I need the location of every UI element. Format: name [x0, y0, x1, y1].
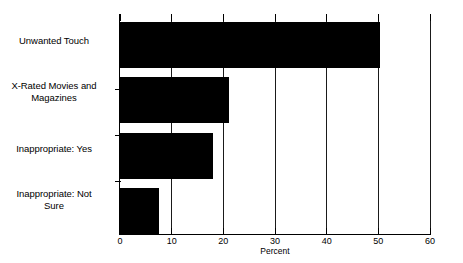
x-axis-tick: [430, 228, 431, 235]
x-axis-tick: [326, 228, 327, 235]
x-axis-tick: [378, 228, 379, 235]
category-label-line: Unwanted Touch: [19, 35, 89, 46]
category-label-line: Magazines: [31, 92, 77, 103]
bar-chart: Unwanted Touch X-Rated Movies and Magazi…: [0, 0, 463, 263]
category-label-inappropriate-yes: Inappropriate: Yes: [0, 143, 108, 155]
x-axis-tick-label: 0: [105, 236, 135, 246]
category-label-inappropriate-not-sure: Inappropriate: Not Sure: [0, 188, 108, 211]
category-label-line: Inappropriate: Yes: [16, 143, 92, 154]
x-axis-tick: [171, 228, 172, 235]
x-axis-tick-label: 40: [312, 236, 342, 246]
x-axis-tick-label: 60: [415, 236, 445, 246]
category-label-x-rated-movies-and-magazines: X-Rated Movies and Magazines: [0, 80, 108, 103]
y-axis-tick: [115, 181, 121, 182]
bar: [120, 188, 159, 234]
gridline: [430, 14, 431, 234]
x-axis-top-tick: [430, 14, 431, 21]
x-axis-tick: [275, 228, 276, 235]
category-label-line: X-Rated Movies and: [11, 80, 96, 91]
category-label-line: Inappropriate: Not: [16, 188, 91, 199]
x-axis-tick: [223, 228, 224, 235]
category-axis-labels: Unwanted Touch X-Rated Movies and Magazi…: [0, 18, 114, 236]
bar: [120, 22, 380, 68]
category-label-line: Sure: [44, 200, 64, 211]
bar: [120, 133, 213, 179]
x-axis-top-tick: [378, 14, 379, 21]
x-axis-tick-label: 20: [208, 236, 238, 246]
x-axis-title: Percent: [120, 246, 430, 256]
x-axis-top-tick: [223, 14, 224, 21]
x-axis-tick-label: 30: [260, 236, 290, 246]
x-axis-top-tick: [275, 14, 276, 21]
plot-area: [120, 18, 430, 234]
x-axis-tick-label: 50: [363, 236, 393, 246]
category-label-unwanted-touch: Unwanted Touch: [0, 35, 108, 47]
bar: [120, 77, 229, 123]
x-axis-top-tick: [120, 14, 121, 21]
x-axis-tick-label: 10: [157, 236, 187, 246]
x-axis-top-tick: [171, 14, 172, 21]
x-axis-top-tick: [326, 14, 327, 21]
